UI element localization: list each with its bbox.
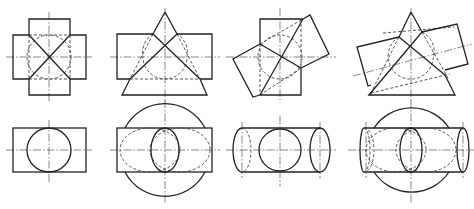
hidden-edge (371, 74, 450, 93)
view-2-front (110, 8, 220, 103)
intersection-line (260, 44, 301, 68)
cone-base (369, 75, 455, 95)
intersection-line (399, 37, 445, 75)
view-3-front (226, 8, 336, 103)
inclined-cylinder-outline (301, 15, 329, 68)
intersection-line (369, 32, 422, 95)
inclined-cylinder-outline (233, 44, 260, 97)
cone-base-circle-top (374, 108, 449, 128)
hidden-cone-edge (177, 34, 200, 79)
view-3-top (226, 116, 336, 186)
hidden-cone-edge (130, 34, 153, 79)
view-1-top (6, 120, 92, 182)
hidden-edge (260, 68, 301, 95)
view-4-top (348, 100, 474, 204)
cylinder-left-outline (117, 34, 153, 79)
cylinder-right-outline (177, 34, 212, 79)
intersection-line (153, 34, 200, 79)
cone-base (122, 79, 207, 95)
hidden-cone-edge (422, 32, 448, 78)
cone-apex (399, 12, 422, 37)
view-2-top (110, 100, 220, 204)
hidden-edge (383, 27, 454, 33)
cone-base-circle-bottom (374, 172, 449, 192)
view-1-front (6, 12, 92, 103)
intersection-line (130, 34, 177, 79)
drawing-canvas: Orthographic projections of intersecting… (0, 0, 474, 209)
view-4-front (353, 8, 472, 103)
